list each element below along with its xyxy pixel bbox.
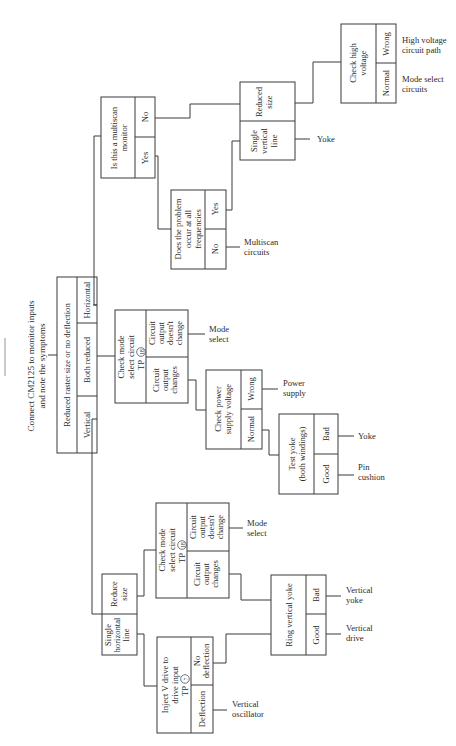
ring-yoke-question: Ring vertical yoke	[284, 583, 294, 647]
multiscan-question-2: monitor	[119, 124, 129, 151]
mode-vert-changes-3: changes	[210, 560, 220, 588]
mode-select-vertical-box: Check mode select circuit TP 18 Circuit …	[156, 503, 229, 598]
connector-mode-vert-changes	[229, 574, 271, 600]
inject-drive-box: Inject V drive to drive input TP 7 No de…	[157, 637, 213, 733]
high-voltage-normal: Normal	[381, 69, 391, 96]
connector-multiscan-no	[155, 104, 240, 118]
connector-inject-no-deflection	[213, 634, 271, 663]
ring-yoke-box: Ring vertical yoke Bad Good	[271, 575, 326, 655]
single-vertical-1: Single	[249, 130, 259, 152]
power-wrong: Wrong	[246, 377, 256, 401]
reduce-size-1: Reduce	[109, 581, 119, 607]
svg-text:TP: TP	[180, 686, 190, 696]
test-yoke-question-2: (both windings)	[297, 427, 307, 482]
tp-number: 18	[139, 349, 145, 355]
connector-frequencies-yes	[226, 141, 240, 210]
result-hv-path-2: circuit path	[402, 45, 442, 55]
horizontal-symptom-box: Reduced size Single vertical line	[240, 82, 295, 160]
inject-question-2: drive input	[170, 666, 180, 704]
troubleshooting-flowchart: Connect CM2125 to monitor inputs and not…	[0, 0, 456, 746]
inject-deflection: Deflection	[197, 690, 207, 727]
root-decision-box: Reduced raster size or no deflection Ver…	[57, 277, 97, 453]
tp-number: 18	[180, 542, 186, 548]
result-vertical-oscillator-1: Vertical	[232, 699, 259, 709]
mode-select-both-box: Check mode select circuit TP 18 Circuit …	[115, 310, 188, 403]
inject-no-deflection-2: deflection	[201, 643, 211, 678]
result-power-supply-2: supply	[283, 388, 307, 398]
frequencies-question-2: occur at all	[183, 209, 193, 248]
high-voltage-question-2: voltage	[358, 50, 368, 75]
high-voltage-wrong: Wrong	[381, 32, 391, 56]
connector-reduced-size	[295, 62, 341, 103]
test-yoke-box: Test yoke (both windings) Bad Good	[279, 414, 338, 494]
single-vertical-3: line	[269, 134, 279, 147]
mode-both-changes-3: changes	[169, 366, 179, 394]
result-mode-select-circuits-1: Mode select	[402, 74, 444, 84]
result-mode-select-both-1: Mode	[209, 324, 229, 334]
reduced-size-1: Reduced	[254, 86, 264, 117]
result-mode-select-circuits-2: circuits	[402, 84, 428, 94]
test-yoke-bad: Bad	[321, 426, 331, 441]
mode-vert-nochange-4: change	[215, 515, 225, 540]
title-line-1: Connect CM2125 to monitor inputs	[26, 300, 36, 432]
single-vertical-2: vertical	[259, 128, 269, 154]
result-vertical-oscillator-2: oscillator	[232, 709, 264, 719]
result-vertical-yoke-2: yoke	[346, 595, 363, 605]
frequencies-no: No	[210, 244, 220, 255]
multiscan-decision-box: Is this a multiscan monitor No Yes	[101, 97, 155, 178]
result-power-supply-1: Power	[283, 378, 305, 388]
result-hv-path-1: High voltage	[402, 35, 447, 45]
test-yoke-good: Good	[321, 464, 331, 484]
ring-yoke-bad: Bad	[311, 587, 321, 602]
result-mode-select-both-2: select	[209, 334, 229, 344]
power-question-2: supply voltage	[223, 384, 233, 435]
mode-both-question-2: select circuit	[126, 335, 136, 379]
result-vertical-drive-2: drive	[346, 633, 364, 643]
root-option-vertical: Vertical	[82, 411, 92, 438]
inject-question-1: Inject V drive to	[160, 657, 170, 713]
result-mode-select-vert-1: Mode	[247, 518, 267, 528]
svg-text:TP: TP	[177, 553, 187, 563]
power-normal: Normal	[246, 415, 256, 442]
result-multiscan-2: circuits	[244, 247, 270, 257]
root-option-horizontal: Horizontal	[82, 281, 92, 318]
result-pin-cushion-1: Pin	[358, 462, 370, 472]
connector-reduce-size	[137, 550, 156, 596]
multiscan-yes: Yes	[140, 151, 150, 164]
vertical-symptom-box: Reduce size Single horizontal line	[102, 574, 137, 655]
result-mode-select-vert-2: select	[247, 528, 267, 538]
result-yoke: Yoke	[358, 431, 376, 441]
mode-vert-question-1: Check mode	[157, 528, 167, 571]
ring-yoke-good: Good	[311, 625, 321, 645]
mode-vert-question-2: select circuit	[167, 528, 177, 572]
frequencies-question-3: frequencies	[193, 209, 203, 249]
result-yoke-h: Yoke	[317, 134, 335, 144]
svg-text:TP: TP	[136, 360, 146, 370]
result-pin-cushion-2: cushion	[358, 472, 385, 482]
mode-both-question-1: Check mode	[116, 335, 126, 378]
single-horizontal-3: line	[121, 628, 131, 641]
root-question: Reduced raster size or no deflection	[62, 303, 72, 427]
high-voltage-question-1: Check high	[348, 43, 358, 83]
test-yoke-question-1: Test yoke	[287, 437, 297, 470]
connector-single-horizontal	[137, 634, 157, 686]
title-line-2: and note the symptoms	[37, 323, 47, 408]
tp-number: 7	[183, 678, 189, 681]
frequencies-question-1: Does the problem	[173, 198, 183, 259]
high-voltage-box: Check high voltage Wrong Normal	[341, 24, 396, 103]
connector-mode-both-changes	[188, 380, 206, 410]
frequencies-yes: Yes	[210, 202, 220, 215]
result-vertical-drive-1: Vertical	[346, 623, 373, 633]
flowchart-title: Connect CM2125 to monitor inputs and not…	[26, 300, 47, 432]
connector-power-normal	[262, 430, 279, 455]
frequencies-decision-box: Does the problem occur at all frequencie…	[171, 190, 226, 269]
result-multiscan-1: Multiscan	[244, 237, 279, 247]
reduce-size-2: size	[119, 587, 129, 601]
multiscan-no: No	[140, 112, 150, 123]
multiscan-question-1: Is this a multiscan	[109, 106, 119, 169]
root-option-both-reduced: Both reduced	[82, 336, 92, 383]
power-question-1: Check power	[213, 386, 223, 432]
result-vertical-yoke-1: Vertical	[346, 585, 373, 595]
connector-multiscan-yes	[155, 156, 171, 229]
reduced-size-2: size	[264, 95, 274, 109]
